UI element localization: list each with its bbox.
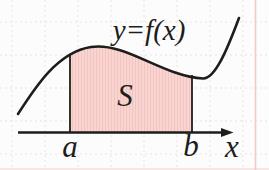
upper-bound-label: b xyxy=(183,128,199,163)
x-axis-label: x xyxy=(224,129,239,164)
region-label: S xyxy=(117,78,133,113)
figure-canvas: y=f(x) S a b x xyxy=(0,0,269,170)
lower-bound-label: a xyxy=(62,129,78,164)
area-under-curve-figure: y=f(x) S a b x xyxy=(0,0,269,170)
function-label: y=f(x) xyxy=(110,14,186,47)
